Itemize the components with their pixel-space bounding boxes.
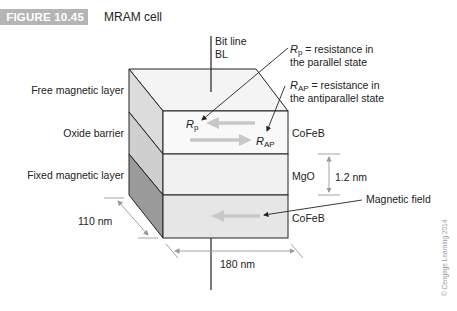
barrier-thickness-label: 1.2 nm [335,171,367,183]
bit-line-label-2: BL [215,48,228,60]
width-dimension-label: 180 nm [220,258,255,270]
oxide-barrier-label: Oxide barrier [63,127,124,139]
front-oxide-layer [163,154,288,195]
legend-rp-desc-2: the parallel state [290,56,367,68]
magnetic-field-label: Magnetic field [366,193,431,205]
copyright-notice: © Cengage Learning 2014 [441,219,449,296]
mram-cell-diagram: Bit line BL Rp RAP Rp = resistance in th… [0,0,457,311]
legend-rap-desc-2: the antiparallel state [290,92,384,104]
legend-rap: RAP = resistance in [290,79,380,93]
free-layer-label: Free magnetic layer [31,84,124,96]
middle-material-label: MgO [292,170,315,182]
bottom-material-label: CoFeB [292,212,325,224]
top-material-label: CoFeB [292,127,325,139]
depth-dimension-label: 110 nm [78,215,112,227]
legend-rp: Rp = resistance in [290,43,373,57]
bit-line-label-1: Bit line [215,35,247,47]
fixed-layer-label: Fixed magnetic layer [27,169,124,181]
